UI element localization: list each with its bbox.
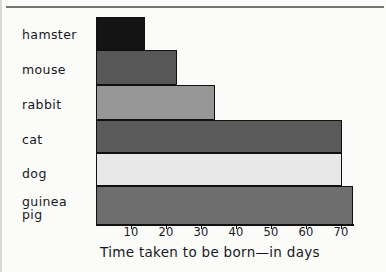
x-tick-label-10: 10: [118, 226, 144, 239]
category-label-hamster: hamster: [22, 29, 77, 42]
bar-cat: [96, 120, 342, 153]
x-tick-label-40: 40: [223, 226, 249, 239]
bar-chart-figure: hamster mouse rabbit cat dog guinea pig …: [0, 0, 386, 272]
x-tick-label-50: 50: [258, 226, 284, 239]
category-label-cat: cat: [22, 134, 43, 147]
x-tick-label-30: 30: [188, 226, 214, 239]
bar-rabbit: [96, 85, 215, 120]
bar-hamster: [96, 17, 145, 50]
category-label-rabbit: rabbit: [22, 99, 61, 112]
x-tick-label-70: 70: [328, 226, 354, 239]
category-label-guinea-pig-line2: pig: [22, 209, 43, 222]
category-label-dog: dog: [22, 168, 47, 181]
page-top-rule: [6, 6, 384, 8]
x-tick-label-20: 20: [153, 226, 179, 239]
page-left-edge: [0, 0, 2, 272]
category-label-mouse: mouse: [22, 64, 66, 77]
x-axis-title: Time taken to be born—in days: [60, 245, 360, 260]
bar-mouse: [96, 50, 177, 85]
x-tick-label-60: 60: [293, 226, 319, 239]
bar-guinea-pig: [96, 186, 353, 225]
bar-dog: [96, 153, 342, 186]
